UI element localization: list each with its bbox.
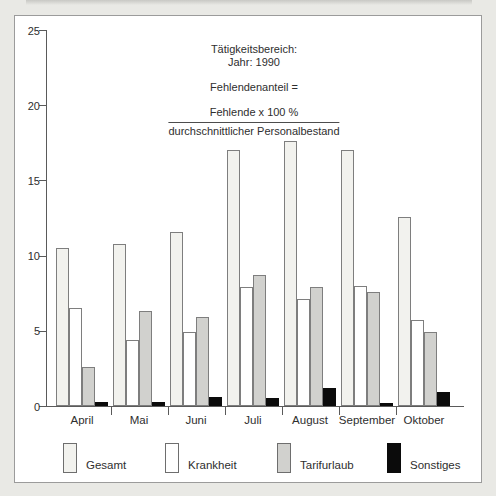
bar-krankheit-mai — [126, 340, 139, 406]
bar-group-juni — [168, 16, 225, 482]
y-tick-label-25: 25 — [15, 25, 40, 37]
y-tick-15 — [39, 180, 47, 181]
y-tick-20 — [39, 105, 47, 106]
y-tick-10 — [39, 256, 47, 257]
bar-sonstiges-juli — [266, 398, 279, 406]
bar-group-oktober — [396, 16, 453, 482]
y-tick-label-20: 20 — [15, 100, 40, 112]
y-axis-line — [46, 30, 47, 407]
bar-sonstiges-april — [95, 402, 108, 407]
top-edge-artifact — [26, 0, 472, 5]
bar-krankheit-juni — [183, 332, 196, 406]
bar-krankheit-oktober — [411, 320, 424, 406]
bar-krankheit-april — [69, 308, 82, 406]
bar-tarifurlaub-mai — [139, 311, 152, 406]
bar-gesamt-april — [56, 248, 69, 406]
bar-krankheit-juli — [240, 287, 253, 406]
bar-gesamt-juni — [170, 232, 183, 406]
bar-tarifurlaub-august — [310, 287, 323, 406]
legend-swatch-tarifurlaub — [277, 443, 291, 473]
legend-swatch-gesamt — [63, 443, 77, 473]
x-label-april: April — [54, 414, 111, 427]
bar-sonstiges-september — [380, 403, 393, 406]
bar-group-august — [282, 16, 339, 482]
legend: GesamtKrankheitTarifurlaubSonstiges — [15, 443, 481, 477]
legend-item-sonstiges: Sonstiges — [387, 443, 461, 473]
y-tick-25 — [39, 30, 47, 31]
bar-krankheit-september — [354, 286, 367, 406]
y-tick-label-5: 5 — [15, 325, 40, 337]
bar-tarifurlaub-juli — [253, 275, 266, 406]
legend-label-tarifurlaub: Tarifurlaub — [300, 458, 354, 473]
y-tick-label-10: 10 — [15, 250, 40, 262]
plot-area: 0510152025 AprilMaiJuniJuliAugustSeptemb… — [15, 16, 481, 482]
bar-group-april — [54, 16, 111, 482]
bar-gesamt-oktober — [398, 217, 411, 407]
legend-item-krankheit: Krankheit — [165, 443, 237, 473]
x-label-juni: Juni — [168, 414, 225, 427]
chart-panel: Tätigkeitsbereich: Jahr: 1990 Fehlendena… — [14, 15, 482, 483]
legend-item-tarifurlaub: Tarifurlaub — [277, 443, 354, 473]
legend-label-gesamt: Gesamt — [86, 458, 126, 473]
y-tick-label-15: 15 — [15, 175, 40, 187]
x-label-september: September — [339, 414, 396, 427]
legend-swatch-sonstiges — [387, 443, 401, 473]
legend-label-sonstiges: Sonstiges — [410, 458, 461, 473]
y-tick-5 — [39, 331, 47, 332]
bar-gesamt-september — [341, 150, 354, 406]
legend-label-krankheit: Krankheit — [188, 458, 237, 473]
bar-sonstiges-mai — [152, 402, 165, 407]
bar-group-juli — [225, 16, 282, 482]
legend-swatch-krankheit — [165, 443, 179, 473]
x-label-august: August — [282, 414, 339, 427]
bar-group-mai — [111, 16, 168, 482]
x-label-juli: Juli — [225, 414, 282, 427]
legend-item-gesamt: Gesamt — [63, 443, 126, 473]
bar-sonstiges-juni — [209, 397, 222, 406]
bar-tarifurlaub-oktober — [424, 332, 437, 406]
bar-group-september — [339, 16, 396, 482]
x-label-oktober: Oktober — [396, 414, 453, 427]
bar-tarifurlaub-september — [367, 292, 380, 406]
bar-gesamt-mai — [113, 244, 126, 406]
page-background: Tätigkeitsbereich: Jahr: 1990 Fehlendena… — [0, 0, 496, 496]
bar-tarifurlaub-april — [82, 367, 95, 406]
x-label-mai: Mai — [111, 414, 168, 427]
bar-gesamt-juli — [227, 150, 240, 406]
bar-tarifurlaub-juni — [196, 317, 209, 406]
bar-sonstiges-oktober — [437, 392, 450, 406]
bar-krankheit-august — [297, 299, 310, 406]
y-tick-label-0: 0 — [15, 401, 40, 413]
bar-sonstiges-august — [323, 388, 336, 406]
bar-gesamt-august — [284, 141, 297, 406]
y-tick-0 — [39, 406, 47, 407]
